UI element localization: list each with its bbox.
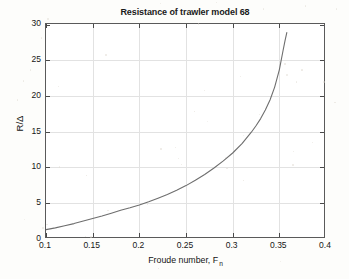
plot-area <box>45 23 325 238</box>
scan-speck <box>284 63 286 65</box>
x-tick-label: 0.15 <box>83 240 100 250</box>
x-tick-label: 0.2 <box>132 240 144 250</box>
chart-title: Resistance of trawler model 68 <box>45 7 325 17</box>
scan-speck <box>30 69 32 71</box>
x-tick-mark <box>324 24 325 28</box>
scan-speck <box>42 227 44 229</box>
scan-speck <box>23 80 24 81</box>
y-tick-label: 10 <box>18 161 41 171</box>
y-tick-mark <box>320 237 324 238</box>
scan-speck <box>86 175 87 176</box>
scan-speck <box>216 2 217 3</box>
y-tick-label: 30 <box>18 18 41 28</box>
scan-speck <box>292 164 293 165</box>
x-axis-label: Froude number, Fn <box>45 255 325 265</box>
scan-speck <box>323 81 325 83</box>
y-tick-label: 5 <box>18 197 41 207</box>
scan-speck <box>207 121 208 122</box>
x-tick-label: 0.25 <box>177 240 194 250</box>
x-axis-label-text: Froude number, F <box>148 255 218 265</box>
scan-speck <box>178 158 179 159</box>
scan-speck <box>160 148 161 149</box>
x-tick-label: 0.3 <box>226 240 238 250</box>
scan-speck <box>158 268 159 269</box>
scan-speck <box>301 69 303 71</box>
scan-speck <box>243 180 244 181</box>
resistance-curve <box>46 24 325 238</box>
scan-speck <box>194 111 195 112</box>
x-tick-label: 0.4 <box>319 240 331 250</box>
scan-speck <box>105 54 107 56</box>
scan-speck <box>47 18 49 20</box>
figure-container: Resistance of trawler model 68 0.10.150.… <box>0 0 349 279</box>
y-tick-label: 25 <box>18 54 41 64</box>
y-tick-label: 0 <box>18 233 41 243</box>
scan-speck <box>336 8 338 10</box>
x-tick-label: 0.35 <box>270 240 287 250</box>
scan-speck <box>160 3 161 4</box>
scan-speck <box>147 204 148 205</box>
x-tick-mark <box>324 233 325 237</box>
y-tick-mark <box>46 237 50 238</box>
scan-speck <box>218 10 219 11</box>
scan-speck <box>41 37 42 38</box>
scan-speck <box>334 102 335 103</box>
scan-speck <box>24 219 25 220</box>
scan-speck <box>90 236 92 238</box>
scan-speck <box>286 74 288 76</box>
x-axis-label-subscript: n <box>219 260 223 267</box>
y-axis-label: R/Δ <box>14 94 25 154</box>
scan-speck <box>280 261 281 262</box>
scan-speck <box>181 164 182 165</box>
scan-speck <box>44 244 45 245</box>
